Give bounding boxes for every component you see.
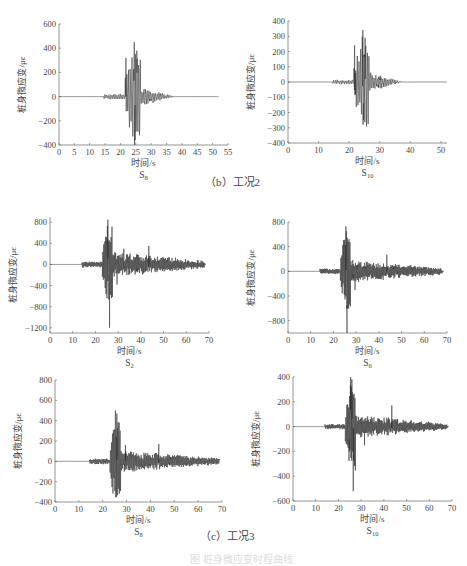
y-tick-label: 0 [286, 422, 290, 432]
y-tick-label: −200 [38, 116, 56, 126]
x-tick-label: 10 [85, 147, 94, 157]
x-tick-label: 40 [375, 335, 384, 345]
x-tick-label: 10 [314, 145, 323, 155]
y-axis-label: 桩身微应变/με [250, 411, 261, 467]
y-tick-label: −200 [34, 477, 52, 487]
y-tick-label: 300 [272, 31, 285, 41]
x-tick-label: 0 [291, 503, 295, 513]
y-tick-label: 400 [277, 372, 290, 382]
subplot-title: S6 [363, 358, 372, 369]
subplot-title: S8 [139, 170, 148, 181]
x-tick-label: 45 [193, 147, 202, 157]
y-tick-label: 0 [281, 77, 285, 87]
x-tick-label: 10 [306, 335, 315, 345]
y-tick-label: 600 [43, 19, 56, 29]
chart-c-S2: −1200−800−4000400800010203040506070时间/sS… [7, 217, 213, 369]
x-tick-label: 40 [406, 145, 415, 155]
y-tick-label: 800 [39, 375, 52, 385]
x-axis-label: 时间/s [355, 155, 380, 166]
x-tick-label: 60 [194, 504, 203, 514]
y-tick-label: −400 [38, 140, 56, 150]
x-tick-label: 50 [208, 147, 217, 157]
y-tick-label: 400 [43, 43, 56, 53]
chart-c-S6: −800−4000400800010203040506070时间/sS6桩身微应… [245, 217, 451, 369]
y-tick-label: 0 [52, 92, 56, 102]
x-tick-label: 70 [218, 504, 227, 514]
y-axis-label: 桩身微应变/με [12, 413, 23, 469]
x-axis-label: 时间/s [117, 345, 142, 356]
x-tick-label: 20 [329, 335, 338, 345]
subplot-title: S8 [134, 527, 143, 538]
x-tick-label: 40 [146, 504, 155, 514]
x-tick-label: 50 [170, 504, 179, 514]
y-tick-label: −400 [29, 281, 47, 291]
y-tick-label: 600 [39, 395, 52, 405]
x-tick-label: 70 [448, 503, 457, 513]
y-tick-label: −400 [267, 138, 285, 148]
strain-time-series [59, 42, 219, 145]
strain-time-series [55, 411, 219, 498]
y-tick-label: −400 [34, 497, 52, 507]
x-tick-label: 30 [357, 503, 366, 513]
subplot-title: S10 [367, 526, 379, 537]
y-tick-label: 800 [272, 217, 285, 227]
y-tick-label: 200 [39, 436, 52, 446]
x-tick-label: 15 [101, 147, 110, 157]
x-tick-label: 30 [114, 335, 123, 345]
y-tick-label: 800 [34, 217, 47, 227]
y-tick-label: 200 [272, 47, 285, 57]
chart-c-S10: −600−400−2000200400010203040506070时间/sS1… [250, 372, 456, 537]
x-tick-label: 40 [137, 335, 146, 345]
x-tick-label: 35 [162, 147, 171, 157]
x-tick-label: 50 [437, 145, 446, 155]
x-tick-label: 30 [147, 147, 156, 157]
y-tick-label: −200 [267, 108, 285, 118]
chart-b-S10: −400−300−200−100010020030040001020304050… [245, 16, 447, 179]
x-tick-label: 40 [178, 147, 187, 157]
x-tick-label: 20 [116, 147, 125, 157]
y-tick-label: 0 [48, 456, 52, 466]
y-axis-label: 桩身微应变/με [16, 56, 27, 112]
x-tick-label: 20 [345, 145, 354, 155]
x-tick-label: 30 [375, 145, 384, 155]
y-tick-label: 0 [281, 266, 285, 276]
y-tick-label: −1200 [25, 323, 47, 333]
strain-time-series [288, 30, 447, 126]
x-tick-label: 25 [132, 147, 141, 157]
x-tick-label: 30 [352, 335, 361, 345]
y-axis-label: 桩身微应变/με [245, 249, 256, 305]
x-tick-label: 60 [182, 335, 191, 345]
chart-c-S8: −400−2000200400600800010203040506070时间/s… [12, 375, 226, 538]
x-tick-label: 0 [57, 147, 61, 157]
y-tick-label: 400 [39, 416, 52, 426]
y-tick-label: −400 [267, 291, 285, 301]
x-tick-label: 70 [443, 335, 452, 345]
x-axis-label: 时间/s [131, 157, 156, 168]
x-tick-label: 40 [380, 503, 389, 513]
x-tick-label: 0 [286, 335, 290, 345]
x-tick-label: 5 [72, 147, 76, 157]
subplot-title: S2 [125, 358, 134, 369]
x-axis-label: 时间/s [360, 513, 385, 524]
strain-time-series [288, 226, 444, 333]
y-tick-label: 400 [272, 16, 285, 26]
x-tick-label: 10 [311, 503, 320, 513]
y-tick-label: −600 [272, 496, 290, 506]
x-tick-label: 50 [397, 335, 406, 345]
x-tick-label: 60 [425, 503, 434, 513]
x-tick-label: 20 [98, 504, 107, 514]
subplot-title: S10 [362, 168, 374, 179]
x-tick-label: 10 [68, 335, 77, 345]
y-tick-label: −300 [267, 123, 285, 133]
x-tick-label: 50 [402, 503, 411, 513]
y-tick-label: −800 [267, 316, 285, 326]
y-tick-label: 200 [277, 397, 290, 407]
y-axis-label: 桩身微应变/με [7, 247, 18, 303]
y-tick-label: −100 [267, 92, 285, 102]
x-tick-label: 60 [420, 335, 429, 345]
x-tick-label: 30 [122, 504, 131, 514]
y-tick-label: −200 [272, 446, 290, 456]
y-tick-label: −400 [272, 471, 290, 481]
x-axis-label: 时间/s [355, 345, 380, 356]
